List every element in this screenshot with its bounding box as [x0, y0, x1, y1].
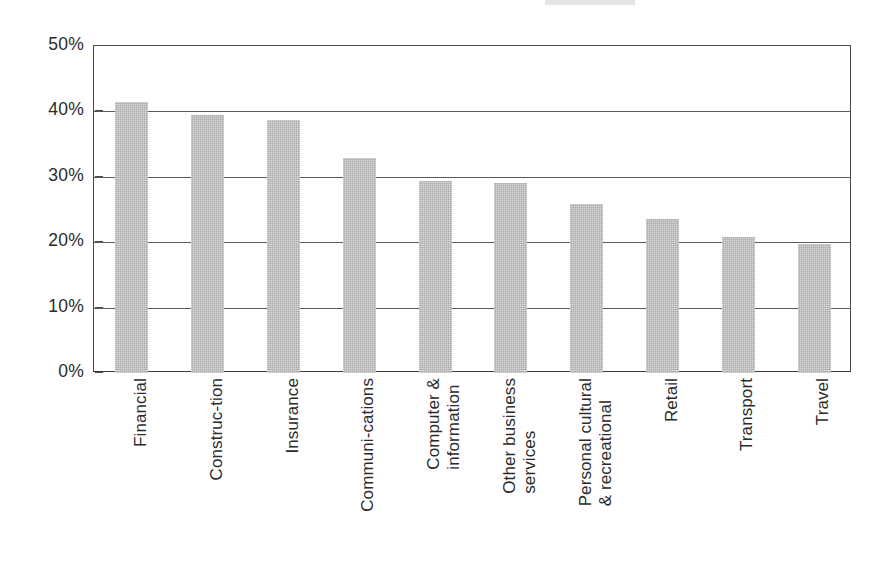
- bar: [267, 120, 300, 373]
- bar: [115, 102, 148, 373]
- x-axis-category-label-line: Insurance: [283, 378, 302, 454]
- y-axis-tick-label: 40%: [20, 102, 84, 120]
- y-axis-tick-label: 20%: [20, 232, 84, 250]
- bar: [419, 181, 452, 373]
- bar: [343, 158, 376, 373]
- y-axis-tick-label: 10%: [20, 298, 84, 316]
- gridline-40: [94, 111, 850, 112]
- y-axis: 50%40%30%20%10%0%: [10, 0, 84, 572]
- x-axis-category-label-line: information: [444, 378, 464, 470]
- plot-area: [93, 45, 851, 372]
- x-axis-category-label-line: Financial: [131, 378, 150, 447]
- bar: [570, 204, 603, 373]
- x-axis-category-label-line: & recreational: [596, 378, 616, 506]
- x-axis-category-label-line: Retail: [662, 378, 681, 422]
- y-axis-tick-label: 0%: [20, 363, 84, 381]
- y-axis-tick-label: 50%: [20, 36, 84, 54]
- bar: [722, 237, 755, 373]
- x-axis-category-label-line: Transport: [737, 378, 756, 451]
- y-axis-tick-label: 30%: [20, 167, 84, 185]
- x-axis-category-label-line: Travel: [813, 378, 832, 425]
- x-axis-category-label-line: Construc-tion: [207, 378, 226, 480]
- bar: [191, 115, 224, 373]
- x-axis-category-label-line: Personal cultural: [576, 378, 596, 506]
- x-axis-category-label-line: Communi-cations: [358, 378, 377, 512]
- bar: [798, 244, 831, 373]
- bar: [494, 183, 527, 373]
- x-axis-category-label-line: Computer &: [424, 378, 444, 470]
- y-axis-tick-mark: [95, 372, 103, 373]
- bar: [646, 219, 679, 373]
- x-axis-category-label-line: services: [520, 378, 540, 494]
- x-axis-category-label-line: Other business: [500, 378, 520, 494]
- bar-chart-figure: 50%40%30%20%10%0% FinancialConstruc-tion…: [0, 0, 878, 572]
